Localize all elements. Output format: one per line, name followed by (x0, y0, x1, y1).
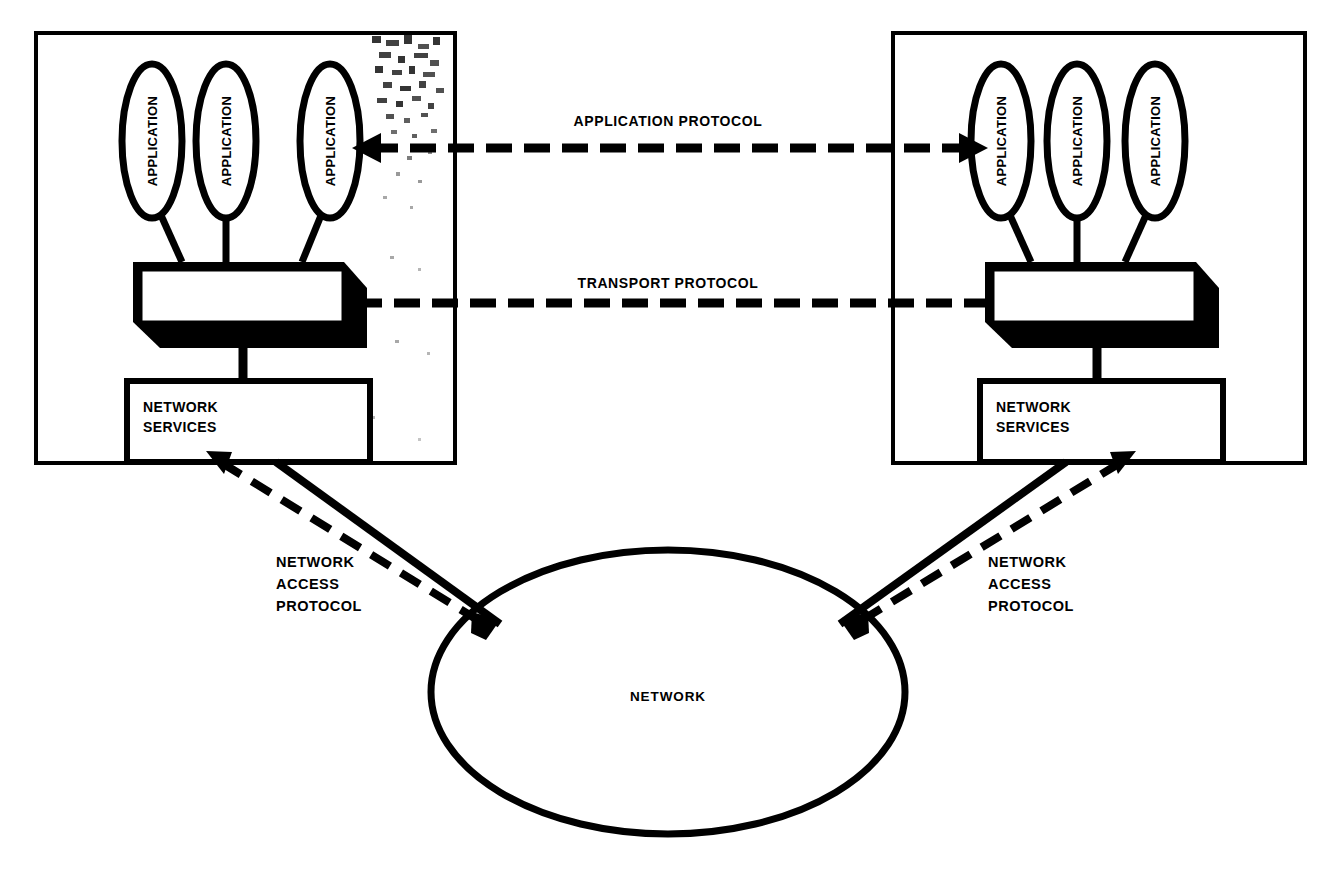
left-application-3-stem (302, 213, 322, 262)
right-transport-block-face (992, 269, 1196, 323)
left-application-1-stem (160, 213, 182, 262)
right-application-3: APPLICATION (1125, 64, 1185, 218)
right-network-services-box: NETWORK SERVICES (980, 381, 1223, 462)
right-network-services-label-line2: SERVICES (996, 419, 1070, 435)
left-network-access-label-line1: NETWORK (276, 554, 354, 570)
right-network-access-label-line2: ACCESS (988, 576, 1051, 592)
left-application-3-label: APPLICATION (323, 96, 338, 186)
right-application-3-stem (1125, 213, 1147, 262)
right-network-services-label-line1: NETWORK (996, 399, 1071, 415)
right-application-1-label: APPLICATION (994, 96, 1009, 186)
left-application-2-label: APPLICATION (219, 96, 234, 186)
right-application-3-label: APPLICATION (1148, 96, 1163, 186)
left-network-services-label-line2: SERVICES (143, 419, 217, 435)
right-network-access-link: NETWORK ACCESS PROTOCOL (840, 451, 1136, 640)
left-application-2: APPLICATION (196, 64, 256, 218)
left-application-1: APPLICATION (122, 64, 182, 218)
transport-protocol-label: TRANSPORT PROTOCOL (578, 275, 759, 291)
network-cloud: NETWORK (431, 550, 905, 834)
right-network-access-label-line3: PROTOCOL (988, 598, 1074, 614)
right-application-1: APPLICATION (971, 64, 1031, 218)
left-network-services-label-line1: NETWORK (143, 399, 218, 415)
left-network-access-label-line3: PROTOCOL (276, 598, 362, 614)
diagram-canvas: APPLICATION APPLICATION APPLICATION (0, 0, 1330, 873)
left-application-1-label: APPLICATION (145, 96, 160, 186)
network-architecture-diagram: APPLICATION APPLICATION APPLICATION (0, 0, 1330, 873)
right-application-2: APPLICATION (1047, 64, 1107, 218)
right-application-1-stem (1009, 213, 1031, 262)
left-network-access-link: NETWORK ACCESS PROTOCOL (206, 451, 500, 640)
scan-noise-artifact (372, 35, 444, 441)
left-transport-block-face (140, 269, 344, 323)
left-network-services-box: NETWORK SERVICES (127, 381, 370, 462)
left-application-3: APPLICATION (300, 64, 360, 218)
right-network-access-label-line1: NETWORK (988, 554, 1066, 570)
right-application-2-label: APPLICATION (1070, 96, 1085, 186)
right-transport-block (985, 262, 1219, 348)
application-protocol-label: APPLICATION PROTOCOL (574, 113, 763, 129)
left-transport-block (133, 262, 367, 348)
network-cloud-label: NETWORK (630, 689, 706, 704)
left-network-access-label-line2: ACCESS (276, 576, 339, 592)
